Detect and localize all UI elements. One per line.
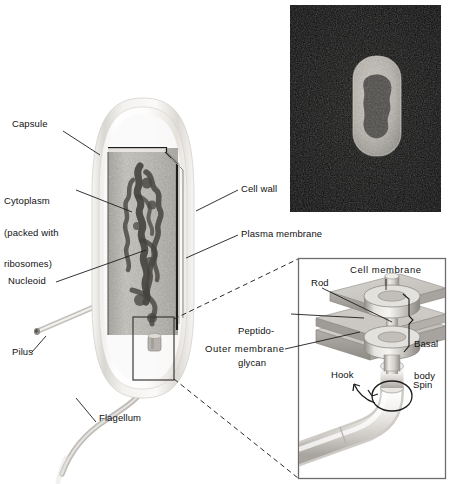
micrograph-cell [353,56,401,156]
label-cytoplasm-line2: (packed with [4,228,59,239]
label-basal-body-line1: Basal [414,339,438,350]
label-rod: Rod [311,278,329,289]
label-cytoplasm: Cytoplasm (packed with ribosomes) [4,175,59,291]
label-spin: Spin [413,380,432,391]
label-flagellum: Flagellum [99,413,141,424]
bacterial-cell [92,98,194,398]
label-cell-wall: Cell wall [241,184,277,195]
label-cell-membrane: Cell membrane [350,265,422,276]
label-peptidoglycan-line2: glycan [238,358,274,369]
lower-ring [364,326,420,359]
electron-micrograph [290,5,441,212]
label-hook: Hook [331,370,354,381]
label-pilus: Pilus [12,347,33,358]
cytoplasm-region [108,148,178,335]
basal-body-nub [148,333,161,351]
label-nucleoid: Nucleoid [8,276,46,287]
label-cytoplasm-line3: ribosomes) [4,259,59,270]
label-capsule: Capsule [12,119,48,130]
upper-ring [364,285,420,318]
label-outer-membrane: Outer membrane [205,344,285,355]
bacterial-cell-figure: Capsule Cytoplasm (packed with ribosomes… [0,0,452,484]
label-plasma-membrane: Plasma membrane [241,229,322,240]
rod-lower-shaft [384,355,400,371]
label-cytoplasm-line1: Cytoplasm [4,196,59,207]
label-peptidoglycan-line1: Peptido- [238,326,274,337]
figure-artwork [0,0,452,484]
